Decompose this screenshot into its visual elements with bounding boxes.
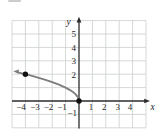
x-axis-letter: x [149,102,155,112]
y-axis-letter: y [65,17,71,27]
y-tick-label: 4 [72,43,77,53]
y-tick-label: 3 [72,56,77,66]
x-tick-label: 1 [89,102,94,112]
plotted-point [76,98,81,103]
plotted-point [23,72,28,77]
y-tick-label: 5 [72,29,77,39]
y-axis-arrow-icon [77,17,82,23]
x-tick-label: −1 [57,102,67,112]
graph-figure: 5 4 3 2 −1 −4 −3 −2 −1 1 2 3 4 y x [0,0,160,133]
x-tick-label: −2 [44,102,54,112]
y-tick-label: 2 [72,70,77,80]
function-curve [18,72,79,101]
curve-left-arrow-icon [13,70,19,74]
x-tick-label: 3 [115,102,120,112]
coordinate-plane: 5 4 3 2 −1 −4 −3 −2 −1 1 2 3 4 y x [0,0,160,133]
x-tick-label: −4 [16,102,26,112]
x-tick-label: 4 [128,102,133,112]
y-tick-label: −1 [67,108,77,118]
x-tick-label: −3 [30,102,40,112]
x-axis-arrow-icon [144,99,150,104]
x-tick-label: 2 [102,102,107,112]
